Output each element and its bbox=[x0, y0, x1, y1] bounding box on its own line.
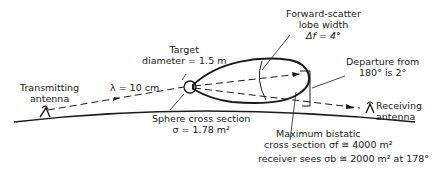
label-line: diameter = 1.5 m bbox=[142, 55, 226, 66]
label-line: antenna bbox=[376, 111, 422, 122]
receiving-antenna-icon bbox=[366, 102, 374, 113]
label-line: Δf = 4° bbox=[286, 30, 361, 41]
label-line: σ = 1.78 m² bbox=[152, 124, 250, 135]
transmitting-antenna-label: Transmitting antenna bbox=[20, 82, 79, 104]
label-line: 180° is 2° bbox=[346, 67, 419, 78]
scattered-ray bbox=[194, 88, 360, 108]
label-line: Departure from bbox=[346, 56, 419, 67]
lobe-width-label: Forward-scatter lobe width Δf = 4° bbox=[286, 8, 361, 41]
bistatic-cross-section-label: Maximum bistatic cross section σf ≅ 4000… bbox=[264, 128, 429, 164]
label-line: Forward-scatter bbox=[286, 8, 361, 19]
label-line: lobe width bbox=[286, 19, 361, 30]
sphere-cross-section-label: Sphere cross section σ = 1.78 m² bbox=[152, 113, 250, 135]
label-line: Target bbox=[142, 44, 226, 55]
label-line: Transmitting bbox=[20, 82, 79, 93]
target-label: Target diameter = 1.5 m bbox=[142, 44, 226, 66]
label-line: receiver sees σb ≅ 2000 m² at 178° bbox=[258, 153, 429, 164]
transmitting-antenna-icon bbox=[40, 106, 50, 117]
label-line: cross section σf ≅ 4000 m² bbox=[264, 139, 429, 150]
label-line: antenna bbox=[20, 93, 79, 104]
label-line: Maximum bistatic bbox=[264, 128, 429, 139]
label-line: Receiving bbox=[376, 100, 422, 111]
receiving-antenna-label: Receiving antenna bbox=[376, 100, 422, 122]
wavelength-label: λ = 10 cm bbox=[110, 82, 159, 93]
lobe-axis bbox=[194, 74, 300, 86]
label-line: Sphere cross section bbox=[152, 113, 250, 124]
departure-label: Departure from 180° is 2° bbox=[346, 56, 419, 78]
